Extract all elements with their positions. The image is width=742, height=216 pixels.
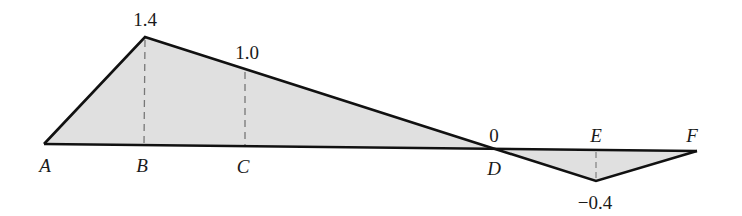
point-label-a: A [37, 155, 51, 176]
value-label-d: 0 [489, 125, 499, 146]
value-label-c: 1.0 [235, 42, 259, 63]
value-label-b: 1.4 [133, 9, 157, 30]
positive-area [44, 37, 492, 148]
value-label-e: −0.4 [578, 192, 613, 213]
point-label-f: F [685, 125, 698, 146]
point-label-c: C [237, 156, 250, 177]
point-label-e: E [589, 125, 602, 146]
point-label-d: D [486, 158, 501, 179]
negative-area [492, 148, 697, 181]
point-label-b: B [136, 155, 148, 176]
influence-line-diagram: 1.4 1.0 0 −0.4 A B C D E F [0, 0, 742, 216]
